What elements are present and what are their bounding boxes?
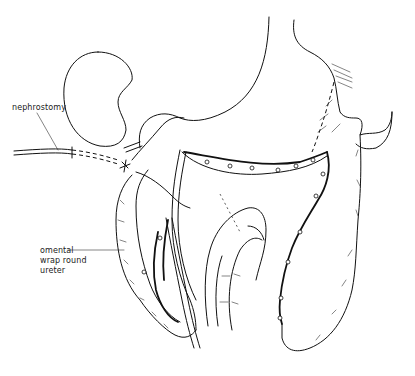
stomach-outline	[139, 17, 392, 152]
omental-label-line3: ureter	[40, 266, 65, 275]
renal-pelvis	[124, 117, 190, 208]
surgical-illustration: nephrostomy omental wrap round ureter	[0, 0, 415, 376]
omental-label-line2: wrap round	[40, 256, 87, 265]
bowel-loops	[205, 208, 266, 330]
suture-line-top	[182, 152, 327, 174]
illustration-drawing	[0, 0, 415, 376]
kidney	[64, 52, 132, 146]
ureter	[142, 218, 200, 348]
nephrostomy-label: nephrostomy	[12, 103, 66, 112]
nephrostomy-tube	[14, 147, 130, 172]
suture-line-right	[278, 152, 329, 324]
omental-label-line1: omental	[40, 246, 74, 255]
nephrostomy-leader	[37, 113, 58, 150]
